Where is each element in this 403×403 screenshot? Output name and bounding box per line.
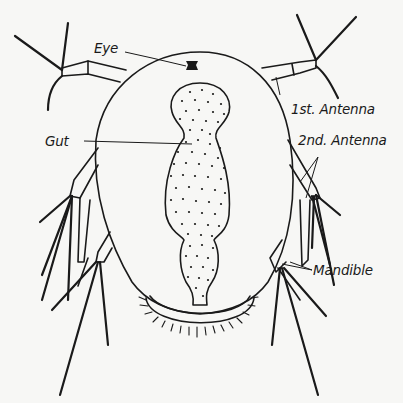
nauplius-diagram [0, 0, 403, 403]
first-antenna-right [262, 15, 356, 98]
label-first-antenna: 1st. Antenna [291, 103, 375, 117]
label-eye: Eye [94, 42, 118, 56]
label-mandible: Mandible [313, 264, 373, 278]
second-antenna-left [40, 148, 98, 300]
labrum [139, 296, 258, 337]
first-antenna-left [15, 23, 126, 110]
label-gut: Gut [45, 135, 69, 149]
leader-lines [84, 52, 318, 270]
gut [165, 83, 229, 305]
body-outline [95, 52, 293, 314]
eye [186, 61, 198, 70]
mandible-left [52, 232, 112, 395]
label-second-antenna: 2nd. Antenna [298, 134, 387, 148]
